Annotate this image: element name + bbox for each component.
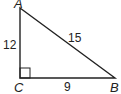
side-length-cb: 9 <box>64 80 71 94</box>
vertex-label-b: B <box>110 80 119 94</box>
vertex-label-c: C <box>14 80 24 94</box>
side-length-ac: 12 <box>3 38 17 52</box>
right-angle-marker <box>20 68 30 78</box>
side-length-ab: 15 <box>68 31 82 45</box>
triangle-diagram: A B C 12 9 15 <box>0 0 121 94</box>
vertex-label-a: A <box>13 0 23 11</box>
